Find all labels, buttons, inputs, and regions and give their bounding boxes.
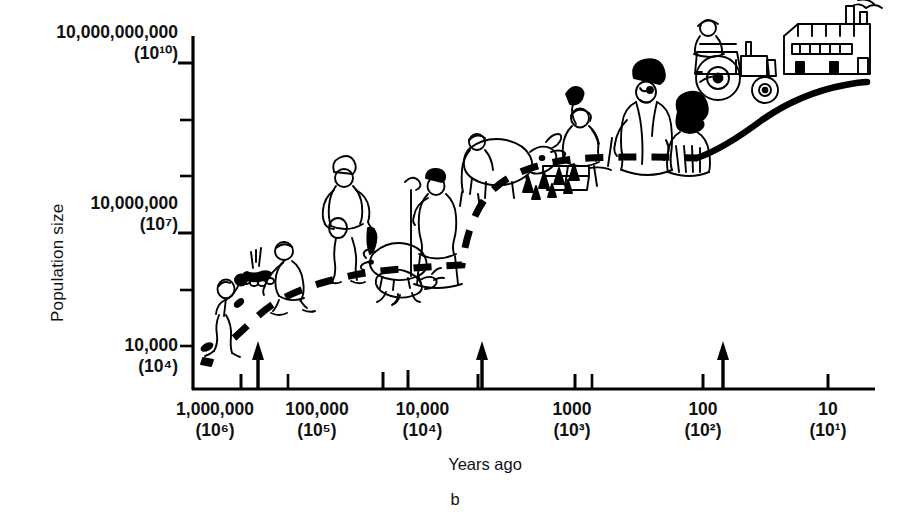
x-axis [192,370,875,389]
illustration-hunter-with-stone [200,275,247,367]
population-curve-solid [697,82,867,158]
annotation-arrow-tool-use [252,341,264,389]
illustration-fire-making [242,242,315,315]
chart-canvas [0,0,909,529]
y-axis [178,36,193,390]
annotation-arrow-industrial [717,341,729,389]
population-growth-figure: Population size 10,000,000,000 (10¹⁰) 10… [0,0,909,529]
illustration-factory [784,0,882,74]
illustration-herder-with-pig [361,169,462,290]
illustration-plowing-with-ox [460,134,579,208]
illustration-farm-tractor [694,20,778,103]
